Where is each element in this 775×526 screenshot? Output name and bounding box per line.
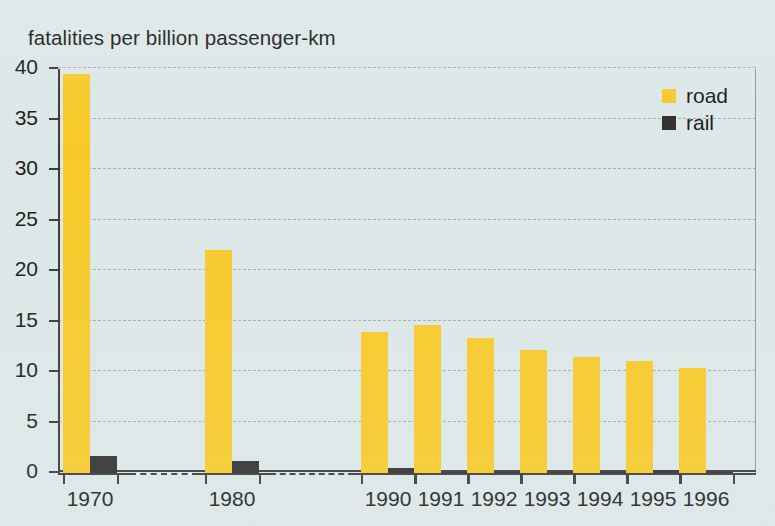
chart-figure: fatalities per billion passenger-km 0510… [0,0,775,526]
road-swatch-icon [662,89,676,103]
x-tick-1991-0 [414,475,416,484]
y-tick-20: 20 [49,269,58,271]
x-tick-label-1970: 1970 [67,487,114,511]
x-tick-1980-0 [205,475,207,484]
axis-break-dashes-1 [270,473,354,475]
chart-legend: road rail [662,82,754,136]
y-tick-10: 10 [49,370,58,372]
x-tick-label-1996: 1996 [683,487,730,511]
y-tick-label-30: 30 [15,156,38,180]
bar-road-1970 [63,74,90,473]
x-tick-1970-0 [63,475,65,484]
y-tick-25: 25 [49,219,58,221]
x-tick-1993-0 [520,475,522,484]
legend-label-rail: rail [686,112,714,133]
bar-road-1996 [679,368,706,473]
x-tick-1996-0 [679,475,681,484]
gridline-15 [58,320,756,322]
x-tick-1994-0 [573,475,575,484]
chart-title: fatalities per billion passenger-km [28,26,336,50]
gridline-40 [58,67,756,69]
plot-right-border [755,69,756,473]
bar-road-1994 [573,357,600,473]
bar-road-1980 [205,250,232,473]
x-tick-label-1993: 1993 [524,487,571,511]
rail-swatch-icon [662,116,676,130]
x-axis: 197019801990199119921993199419951996 [58,473,756,526]
x-tick-label-1995: 1995 [630,487,677,511]
y-tick-40: 40 [49,67,58,69]
x-axis-segment-0 [58,473,130,475]
y-tick-label-0: 0 [26,459,38,483]
y-tick-15: 15 [49,320,58,322]
bar-rail-1980 [232,461,259,473]
bar-road-1992 [467,338,494,473]
x-tick-label-1980: 1980 [209,487,256,511]
axis-break-dashes-0 [130,473,198,475]
bar-road-1993 [520,350,547,473]
legend-item-rail: rail [662,109,754,136]
bar-road-1991 [414,325,441,473]
gridline-30 [58,168,756,170]
legend-label-road: road [686,85,728,106]
legend-item-road: road [662,82,754,109]
y-tick-0: 0 [49,471,58,473]
gridline-35 [58,118,756,120]
gridline-20 [58,269,756,271]
y-tick-5: 5 [49,421,58,423]
x-tick-1996-1 [733,475,735,484]
x-tick-label-1991: 1991 [418,487,465,511]
x-tick-label-1994: 1994 [577,487,624,511]
plot-area [58,69,756,473]
y-tick-label-20: 20 [15,257,38,281]
y-tick-label-15: 15 [15,308,38,332]
x-tick-1992-0 [467,475,469,484]
x-tick-label-1990: 1990 [365,487,412,511]
gridline-25 [58,219,756,221]
x-tick-1990-0 [361,475,363,484]
y-tick-35: 35 [49,118,58,120]
y-tick-label-25: 25 [15,207,38,231]
bar-rail-1970 [90,456,117,473]
x-tick-1995-0 [626,475,628,484]
y-tick-30: 30 [49,168,58,170]
bar-road-1990 [361,332,388,473]
x-tick-label-1992: 1992 [471,487,518,511]
y-tick-label-40: 40 [15,55,38,79]
y-axis: 0510152025303540 [58,69,60,475]
bar-road-1995 [626,361,653,473]
y-tick-label-35: 35 [15,106,38,130]
y-tick-label-5: 5 [26,409,38,433]
y-tick-label-10: 10 [15,358,38,382]
x-tick-1970-1 [117,475,119,484]
x-tick-1980-1 [259,475,261,484]
